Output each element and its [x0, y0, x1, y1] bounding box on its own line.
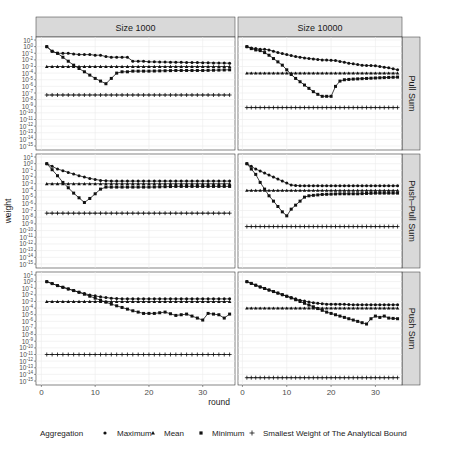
facet-panel	[36, 37, 235, 150]
x-tick-label: 30	[198, 388, 207, 397]
legend: AggregationMaximumMeanMinimumSmallest We…	[40, 429, 407, 438]
row-strip-label: Pull Sum	[407, 75, 417, 111]
legend-label: Smallest Weight of The Analytical Bound	[263, 429, 407, 438]
x-tick-label: 30	[371, 388, 380, 397]
facet-panel	[238, 37, 402, 150]
facet-panel	[238, 272, 402, 385]
y-tick-label: 10-15	[19, 142, 33, 150]
col-strip-label: Size 1000	[115, 23, 155, 33]
facet-panel	[36, 272, 235, 385]
legend-label: Minimum	[212, 429, 245, 438]
x-axis-title: round	[208, 397, 230, 407]
y-tick-label: 10-15	[19, 260, 33, 268]
y-axis-title: weight	[3, 198, 13, 224]
row-strip-label: Push–Pull Sum	[407, 180, 417, 242]
legend-key-square	[199, 431, 202, 434]
x-tick-label: 20	[144, 388, 153, 397]
legend-label: Maximum	[117, 429, 152, 438]
facet-panel	[238, 154, 402, 268]
legend-key-plus	[250, 431, 255, 436]
x-tick-label: 10	[282, 388, 291, 397]
x-tick-label: 20	[327, 388, 336, 397]
legend-label: Mean	[164, 429, 184, 438]
legend-key-circle	[103, 431, 106, 434]
faceted-log-chart: Size 1000Size 10000Pull SumPush–Pull Sum…	[0, 0, 451, 452]
legend-title: Aggregation	[40, 429, 83, 438]
x-tick-label: 10	[91, 388, 100, 397]
facet-panel	[36, 154, 235, 268]
col-strip-label: Size 10000	[297, 23, 342, 33]
y-tick-label: 10-15	[19, 377, 33, 385]
x-tick-label: 0	[39, 388, 44, 397]
x-tick-label: 0	[240, 388, 245, 397]
row-strip-label: Push Sum	[407, 308, 417, 350]
